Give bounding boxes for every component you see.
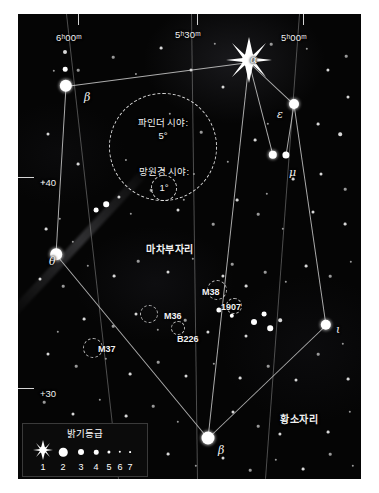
- star: [347, 378, 350, 381]
- dec-tick-1: [18, 388, 34, 389]
- star: [45, 228, 48, 231]
- ra-label-0: 6ʰ00ᵐ: [56, 32, 82, 43]
- star: [112, 56, 115, 59]
- star: [251, 319, 257, 325]
- star: [94, 208, 99, 213]
- star: [112, 325, 115, 328]
- star: [137, 260, 140, 263]
- star: [267, 365, 270, 368]
- finder-fov-label: 파인더 시야:5°: [127, 117, 199, 143]
- star: [59, 218, 61, 220]
- magnitude-legend: 밝기등급 1234567: [22, 423, 148, 477]
- star: [99, 399, 101, 401]
- legend-number-2: 2: [60, 462, 65, 472]
- star: [262, 312, 267, 317]
- star: [269, 151, 277, 159]
- deep-sky-label-3: B226: [177, 334, 199, 344]
- deep-sky-label-4: M37: [98, 344, 116, 354]
- star: [344, 188, 347, 191]
- star: [295, 379, 298, 382]
- star: [267, 325, 273, 331]
- star: [72, 413, 75, 416]
- star: [254, 139, 257, 142]
- dec-label-0: +40: [40, 177, 56, 188]
- deep-sky-marker: [140, 305, 158, 323]
- star: [222, 86, 225, 89]
- star-label-0: α: [250, 53, 257, 66]
- star: [236, 199, 239, 202]
- star: [342, 343, 344, 345]
- star: [275, 459, 277, 461]
- star: [167, 271, 170, 274]
- star: [239, 377, 242, 380]
- star: [135, 313, 138, 316]
- ra-tick-1: [197, 14, 198, 25]
- legend-title: 밝기등급: [23, 426, 147, 440]
- star: [47, 353, 50, 356]
- star: [231, 263, 234, 266]
- star: [327, 431, 330, 434]
- star: [350, 261, 352, 263]
- legend-number-5: 5: [106, 462, 111, 472]
- constellation-line: [294, 104, 327, 325]
- star: [60, 80, 72, 92]
- star: [39, 278, 42, 281]
- star: [285, 281, 287, 283]
- star: [306, 48, 308, 50]
- star: [305, 265, 308, 268]
- star: [157, 329, 159, 331]
- star-label-1: β: [84, 91, 90, 104]
- star: [63, 67, 68, 72]
- star: [83, 318, 86, 321]
- constellation-line: [66, 62, 249, 87]
- star: [257, 213, 260, 216]
- deep-sky-marker: [171, 321, 185, 335]
- telescope-fov-label: 망원경 시야:: [124, 166, 204, 179]
- star: [190, 69, 193, 72]
- star: [230, 314, 234, 318]
- star: [257, 425, 260, 428]
- deep-sky-label-1: 1907: [221, 302, 241, 312]
- star-chart: 6ʰ00ᵐ5ʰ30ᵐ5ʰ00ᵐ+40+30αβεμθιβM381907M36B2…: [18, 14, 361, 479]
- star: [289, 99, 299, 109]
- star-label-5: ι: [336, 323, 340, 336]
- dec-tick-0: [18, 177, 34, 178]
- star: [278, 432, 281, 435]
- legend-dot-mag7: [129, 451, 131, 453]
- bright-star-alpha: [226, 37, 272, 87]
- star: [245, 335, 248, 338]
- star: [177, 209, 180, 212]
- star: [264, 271, 267, 274]
- deep-sky-label-0: M38: [202, 287, 220, 297]
- constellation-label-0: 마차부자리: [146, 241, 194, 256]
- star: [349, 411, 351, 413]
- star: [338, 132, 342, 136]
- constellation-label-1: 황소자리: [280, 411, 318, 426]
- star: [312, 211, 315, 214]
- star: [320, 173, 323, 176]
- star: [302, 468, 305, 471]
- legend-number-3: 3: [78, 462, 83, 472]
- star-label-3: μ: [289, 166, 296, 179]
- ra-tick-0: [78, 14, 79, 25]
- star: [326, 68, 329, 71]
- star: [77, 163, 80, 166]
- legend-dot-mag6: [119, 451, 121, 453]
- dec-label-1: +30: [40, 388, 56, 399]
- star: [212, 223, 215, 226]
- constellation-line: [56, 254, 209, 439]
- star: [321, 320, 331, 330]
- telescope-fov-line1: 망원경 시야:: [139, 166, 189, 177]
- star: [232, 411, 235, 414]
- ra-label-1: 5ʰ30ᵐ: [175, 29, 201, 40]
- star: [270, 43, 273, 46]
- star: [87, 265, 89, 267]
- star: [135, 73, 137, 75]
- constellation-line: [208, 62, 250, 438]
- star: [43, 401, 46, 404]
- deep-sky-label-2: M36: [164, 311, 182, 321]
- star: [202, 432, 215, 445]
- star: [62, 285, 65, 288]
- star: [75, 365, 78, 368]
- legend-star-mag1: [33, 440, 53, 464]
